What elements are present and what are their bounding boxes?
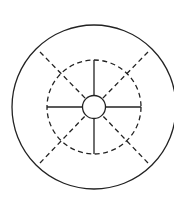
inner-circle bbox=[83, 96, 106, 119]
diagonal-top-right bbox=[102, 52, 148, 99]
diagonal-bottom-left bbox=[40, 115, 86, 163]
concentric-circle-diagram bbox=[0, 0, 174, 222]
outer-circle bbox=[12, 25, 174, 189]
diagonal-top-left bbox=[40, 52, 86, 99]
diagonal-bottom-right bbox=[102, 115, 148, 163]
